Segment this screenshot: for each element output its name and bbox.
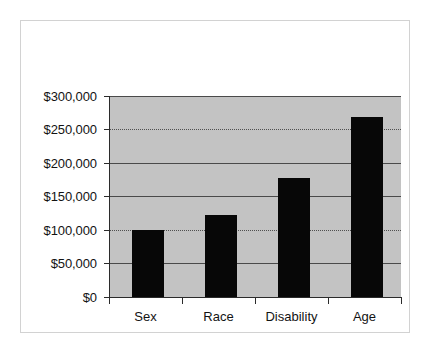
plot-area [109, 96, 401, 297]
y-tick-mark-200000 [104, 163, 109, 164]
y-tick-label-100000: $100,000 [13, 224, 97, 237]
chart-frame: $300,000 $250,000 $200,000 $150,000 $100… [20, 20, 410, 333]
x-tick-mark-4 [401, 298, 402, 304]
bar-sex [132, 230, 164, 297]
bar-disability [278, 178, 310, 297]
x-tick-label-age: Age [328, 309, 401, 324]
x-tick-label-race: Race [182, 309, 255, 324]
x-tick-mark-2 [255, 298, 256, 304]
gridline-300000 [109, 96, 401, 97]
x-tick-mark-1 [182, 298, 183, 304]
y-tick-label-200000: $200,000 [13, 157, 97, 170]
y-tick-mark-300000 [104, 96, 109, 97]
y-tick-mark-150000 [104, 196, 109, 197]
y-tick-mark-50000 [104, 263, 109, 264]
y-tick-label-250000: $250,000 [13, 123, 97, 136]
y-axis-line [109, 96, 110, 298]
x-tick-mark-3 [328, 298, 329, 304]
x-tick-label-disability: Disability [255, 309, 328, 324]
y-tick-mark-250000 [104, 129, 109, 130]
bar-race [205, 215, 237, 297]
x-tick-label-sex: Sex [109, 309, 182, 324]
y-tick-label-150000: $150,000 [13, 190, 97, 203]
y-tick-mark-100000 [104, 230, 109, 231]
y-tick-label-50000: $50,000 [13, 257, 97, 270]
bar-age [351, 117, 383, 297]
y-tick-label-0: $0 [13, 291, 97, 304]
x-tick-mark-0 [109, 298, 110, 304]
y-tick-label-300000: $300,000 [13, 90, 97, 103]
